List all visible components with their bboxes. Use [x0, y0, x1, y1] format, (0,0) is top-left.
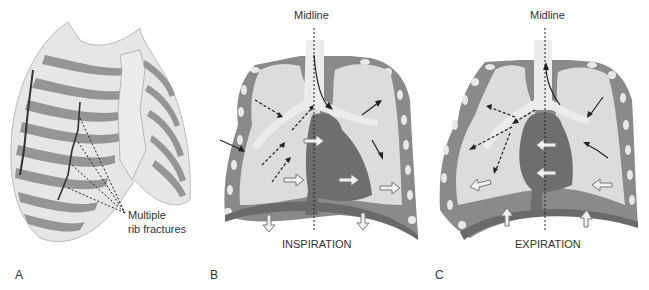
annotation-line-2: rib fractures	[128, 222, 186, 236]
rib-cage-illustration	[0, 0, 210, 290]
panel-letter-b: B	[210, 268, 218, 282]
panel-c-expiration: Midline EXPIRATION C	[420, 0, 649, 290]
panel-letter-a: A	[15, 268, 23, 282]
phase-label-inspiration: INSPIRATION	[282, 238, 351, 250]
panel-b-inspiration: Midline INSPIRATION B	[200, 0, 430, 290]
rib-fracture-annotation: Multiple rib fractures	[128, 208, 186, 236]
annotation-line-1: Multiple	[128, 208, 186, 222]
midline-label-b: Midline	[294, 9, 329, 21]
phase-label-expiration: EXPIRATION	[515, 238, 581, 250]
midline-label-c: Midline	[530, 9, 565, 21]
panel-a-rib-cage: Multiple rib fractures A	[0, 0, 210, 290]
panel-letter-c: C	[435, 268, 444, 282]
